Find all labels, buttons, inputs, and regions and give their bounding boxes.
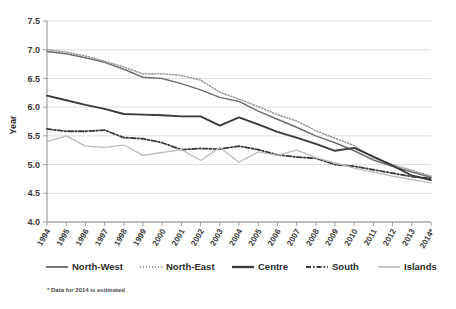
x-tick-label: 2004 <box>228 227 245 247</box>
series-line-south <box>47 129 431 178</box>
line-chart: 7.57.06.56.05.55.04.54.0 199419951996199… <box>0 0 456 309</box>
y-tick-label: 4.0 <box>27 217 40 227</box>
footnote-text: * Data for 2014 is estimated <box>47 287 125 293</box>
x-tick-label: 2005 <box>247 227 264 247</box>
y-axis-label: Year <box>8 115 18 135</box>
y-tick-label: 6.0 <box>27 102 40 112</box>
legend-label-islands: Islands <box>404 261 437 272</box>
x-tick-label: 2008 <box>304 227 321 247</box>
x-tick-label: 1999 <box>132 227 149 247</box>
y-tick-label: 5.0 <box>27 160 40 170</box>
series-line-centre <box>47 96 431 180</box>
x-tick-label: 1996 <box>74 227 91 247</box>
x-tick-label: 2006 <box>266 227 283 247</box>
axes <box>43 21 431 226</box>
x-tick-label: 2014* <box>418 227 437 250</box>
x-tick-label: 2002 <box>189 227 206 247</box>
y-axis-label-text: Year <box>8 115 18 135</box>
legend-label-south: South <box>332 261 359 272</box>
x-tick-label: 1994 <box>36 227 53 247</box>
y-tick-labels: 7.57.06.56.05.55.04.54.0 <box>27 16 40 227</box>
legend-label-centre: Centre <box>258 261 288 272</box>
x-tick-label: 2009 <box>324 227 341 247</box>
y-tick-label: 4.5 <box>27 188 40 198</box>
y-tick-label: 5.5 <box>27 131 40 141</box>
x-tick-label: 2003 <box>208 227 225 247</box>
chart-legend: North-WestNorth-EastCentreSouthIslands <box>46 261 437 272</box>
y-tick-label: 6.5 <box>27 74 40 84</box>
y-tick-label: 7.0 <box>27 45 40 55</box>
legend-label-north-west: North-West <box>72 261 124 272</box>
x-tick-label: 1995 <box>55 227 72 247</box>
x-tick-label: 2000 <box>151 227 168 247</box>
x-tick-label: 2011 <box>362 227 379 247</box>
x-tick-label: 2001 <box>170 227 187 247</box>
series-lines <box>47 50 431 183</box>
x-tick-label: 1997 <box>93 227 110 247</box>
y-tick-label: 7.5 <box>27 16 40 26</box>
gridlines <box>47 21 431 222</box>
x-tick-label: 2012 <box>381 227 398 247</box>
x-tick-label: 2007 <box>285 227 302 247</box>
x-tick-label: 1998 <box>112 227 129 247</box>
chart-footnote: * Data for 2014 is estimated <box>47 287 125 293</box>
x-tick-label: 2013 <box>400 227 417 247</box>
x-tick-label: 2010 <box>343 227 360 247</box>
legend-label-north-east: North-East <box>166 261 215 272</box>
x-tick-labels: 1994199519961997199819992000200120022003… <box>36 227 437 250</box>
chart-canvas: 7.57.06.56.05.55.04.54.0 199419951996199… <box>0 0 456 309</box>
